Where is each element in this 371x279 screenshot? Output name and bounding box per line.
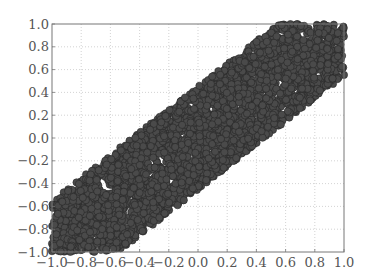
- scatter-chart: 1.00.80.60.40.20.0−0.2−0.4−0.6−0.8−1.0 −…: [0, 0, 371, 279]
- data-point: [278, 22, 285, 29]
- data-point: [216, 81, 223, 88]
- data-point: [71, 207, 78, 214]
- data-point: [136, 162, 143, 169]
- data-point: [174, 202, 181, 209]
- data-point: [127, 219, 134, 226]
- data-point: [186, 178, 193, 185]
- data-point: [296, 105, 303, 112]
- data-point: [130, 184, 137, 191]
- data-point: [296, 94, 303, 101]
- x-tick-label: −0.2: [153, 255, 185, 270]
- data-point: [178, 179, 185, 186]
- data-point: [95, 167, 102, 174]
- data-point: [132, 134, 139, 141]
- x-tick-label: 0.4: [246, 255, 267, 270]
- data-point: [257, 49, 264, 56]
- data-point: [261, 63, 268, 70]
- x-tick-label: 0.0: [188, 255, 209, 270]
- data-point: [179, 121, 186, 128]
- data-point: [103, 191, 110, 198]
- data-point: [258, 128, 265, 135]
- data-point: [75, 214, 82, 221]
- x-tick-label: 0.6: [275, 255, 296, 270]
- data-point: [219, 157, 226, 164]
- data-point: [196, 133, 203, 140]
- data-point: [169, 173, 176, 180]
- data-point: [161, 133, 168, 140]
- data-point: [253, 38, 260, 45]
- data-point: [281, 45, 288, 52]
- data-point: [150, 199, 157, 206]
- data-point: [171, 137, 178, 144]
- data-point: [158, 119, 165, 126]
- data-point: [335, 46, 342, 53]
- data-point: [324, 60, 331, 67]
- data-point: [59, 198, 66, 205]
- data-point: [288, 85, 295, 92]
- data-point: [338, 63, 345, 70]
- data-point: [223, 105, 230, 112]
- data-point: [289, 48, 296, 55]
- data-point: [86, 212, 93, 219]
- data-point: [284, 59, 291, 66]
- data-point: [113, 193, 120, 200]
- data-point: [115, 161, 122, 168]
- data-point: [151, 164, 158, 171]
- data-point: [94, 188, 101, 195]
- data-point: [189, 185, 196, 192]
- data-point: [135, 176, 142, 183]
- data-point: [333, 37, 340, 44]
- x-tick-label: 1.0: [334, 255, 355, 270]
- data-point: [133, 142, 140, 149]
- data-point: [340, 24, 347, 31]
- data-point: [74, 227, 81, 234]
- x-tick-label: −0.6: [95, 255, 127, 270]
- data-point: [210, 133, 217, 140]
- data-point: [139, 227, 146, 234]
- data-point: [294, 56, 301, 63]
- data-point: [274, 73, 281, 80]
- data-point: [122, 173, 129, 180]
- data-point: [148, 188, 155, 195]
- data-point: [192, 149, 199, 156]
- data-point: [124, 231, 131, 238]
- data-point: [54, 210, 61, 217]
- data-point: [65, 187, 72, 194]
- data-point: [263, 77, 270, 84]
- data-point: [217, 135, 224, 142]
- data-point: [88, 205, 95, 212]
- data-point: [248, 79, 255, 86]
- data-point: [311, 74, 318, 81]
- y-axis-ticks: 1.00.80.60.40.20.0−0.2−0.4−0.6−0.8−1.0: [17, 17, 55, 260]
- data-point: [264, 123, 271, 130]
- x-tick-label: −1.0: [36, 255, 68, 270]
- data-point: [325, 34, 332, 41]
- data-point: [116, 211, 123, 218]
- data-point: [147, 126, 154, 133]
- data-point: [113, 224, 120, 231]
- data-point: [196, 163, 203, 170]
- data-point: [113, 239, 120, 246]
- data-point: [245, 135, 252, 142]
- data-point: [136, 189, 143, 196]
- data-point: [53, 231, 60, 238]
- data-point: [131, 201, 138, 208]
- data-point: [203, 102, 210, 109]
- data-point: [187, 119, 194, 126]
- data-point: [217, 71, 224, 78]
- data-point: [77, 187, 84, 194]
- data-point: [252, 61, 259, 68]
- data-point: [57, 240, 64, 247]
- data-point: [209, 121, 216, 128]
- data-point: [128, 165, 135, 172]
- data-point: [76, 236, 83, 243]
- data-point: [134, 216, 141, 223]
- data-point: [314, 37, 321, 44]
- data-point: [107, 232, 114, 239]
- data-point: [310, 61, 317, 68]
- data-point: [200, 90, 207, 97]
- y-tick-label: 1.0: [28, 17, 49, 32]
- scatter-points: [48, 21, 347, 256]
- y-tick-label: −0.8: [17, 222, 49, 237]
- data-point: [107, 174, 114, 181]
